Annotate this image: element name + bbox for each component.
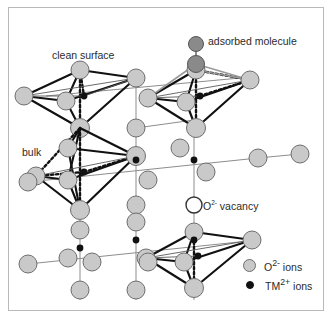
oxygen-ion: [127, 69, 145, 87]
oxygen-ion: [177, 93, 195, 111]
oxygen-ion: [243, 231, 261, 249]
label-bulk: bulk: [22, 146, 41, 158]
oxygen-ion: [197, 163, 215, 181]
oxygen-ion: [139, 171, 157, 189]
metal-ion: [81, 169, 88, 176]
legend-oxygen-label: O2- ions: [264, 258, 302, 273]
oxygen-vacancy: [186, 197, 202, 213]
adsorbed-molecule-atom: [189, 37, 204, 52]
oxygen-ion: [71, 201, 90, 220]
oxygen-ion: [59, 249, 77, 267]
legend-metal-charge: 2+: [280, 277, 290, 287]
metal-ion: [77, 245, 84, 252]
legend-metal-symbol: TM: [265, 280, 280, 292]
oxygen-ion: [171, 139, 189, 157]
oxygen-ion: [139, 89, 157, 107]
oxygen-ion: [83, 253, 101, 271]
label-adsorbed-molecule: adsorbed molecule: [208, 35, 297, 47]
oxygen-ion: [187, 119, 206, 138]
metal-ion: [191, 157, 198, 164]
oxygen-ion: [19, 255, 37, 273]
oxygen-ion: [59, 139, 77, 157]
legend-item-metal: TM2+ ions: [243, 275, 312, 294]
oxygen-ion: [71, 221, 89, 239]
metal-ion: [81, 93, 88, 100]
oxygen-ion: [127, 281, 145, 299]
oxygen-ion: [57, 92, 75, 110]
oxygen-ion: [15, 87, 33, 105]
oxygen-ion: [71, 281, 89, 299]
oxygen-ion: [249, 149, 267, 167]
legend-oxygen-text: ions: [280, 261, 302, 273]
metal-ion: [133, 237, 140, 244]
oxygen-ion: [19, 173, 37, 191]
adsorbate-octahedron: [139, 37, 259, 138]
figure-canvas: clean surface bulk adsorbed molecule O2-…: [0, 0, 334, 324]
legend-oxygen-symbol: O: [264, 261, 272, 273]
oxygen-ion: [185, 279, 204, 298]
metal-ion: [197, 93, 204, 100]
oxygen-ion: [241, 71, 259, 89]
legend-metal-label: TM2+ ions: [265, 277, 312, 292]
oxygen-ion: [175, 253, 193, 271]
oxygen-ion: [71, 61, 89, 79]
metal-ion: [195, 253, 202, 260]
oxygen-ion: [127, 213, 145, 231]
vacancy-text: vacancy: [217, 200, 258, 212]
oxygen-ion: [59, 171, 77, 189]
label-clean-surface: clean surface: [52, 49, 114, 61]
clean-surface-octahedron: [15, 61, 145, 138]
legend-item-oxygen: O2- ions: [243, 256, 312, 275]
metal-ion-swatch-icon: [246, 281, 254, 289]
label-oxygen-vacancy: O2- vacancy: [203, 199, 258, 212]
adsorbed-molecule-atom: [188, 56, 205, 73]
metal-ion: [133, 157, 140, 164]
oxygen-ion: [127, 196, 145, 214]
legend-metal-text: ions: [290, 280, 312, 292]
vacancy-symbol: O: [203, 200, 211, 212]
oxygen-ion: [139, 253, 157, 271]
oxygen-ion: [127, 119, 145, 137]
legend-oxygen-charge: 2-: [272, 258, 280, 268]
oxygen-ion-swatch-icon: [243, 259, 256, 272]
metal-ion: [191, 237, 198, 244]
oxygen-ion: [291, 145, 309, 163]
legend: O2- ions TM2+ ions: [243, 256, 312, 294]
